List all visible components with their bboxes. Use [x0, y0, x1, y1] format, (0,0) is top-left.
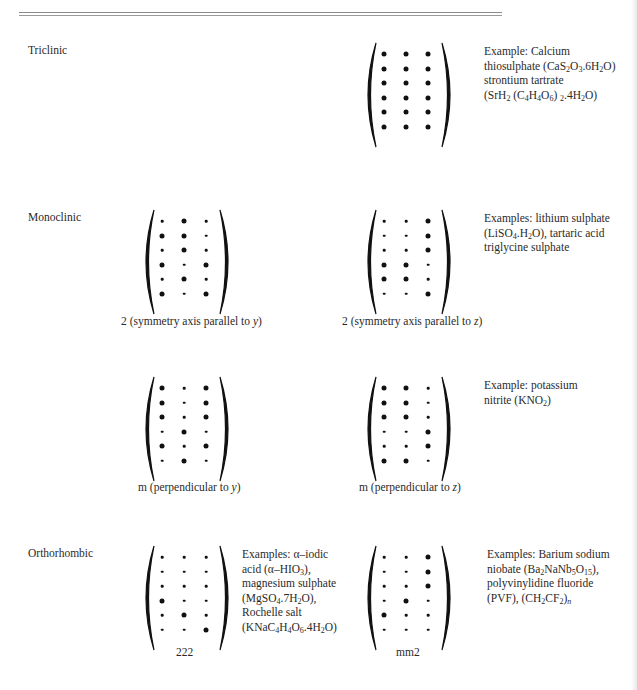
- example-line: polyvinylidine fluoride: [487, 576, 610, 591]
- small-dot-icon: [405, 570, 408, 573]
- large-dot-icon: [404, 110, 409, 115]
- large-dot-icon: [382, 124, 387, 129]
- small-dot-icon: [427, 459, 430, 462]
- small-dot-icon: [183, 570, 186, 573]
- large-dot-icon: [382, 81, 387, 86]
- large-dot-icon: [382, 52, 387, 57]
- caption-close-paren: ): [478, 315, 482, 327]
- large-dot-icon: [204, 386, 209, 391]
- small-dot-icon: [161, 249, 164, 252]
- example-line: niobate (Ba2NaNb5O15),: [487, 562, 610, 577]
- t: nitrite (KNO: [484, 394, 543, 406]
- small-dot-icon: [405, 249, 408, 252]
- large-dot-icon: [160, 386, 165, 391]
- example-line: Example: Calcium: [484, 44, 615, 59]
- large-dot-icon: [404, 386, 409, 391]
- small-dot-icon: [183, 585, 186, 588]
- large-dot-icon: [160, 291, 165, 296]
- large-dot-icon: [182, 458, 187, 463]
- example-line: (KNaC4H4O6.4H2O): [242, 620, 337, 635]
- large-dot-icon: [426, 248, 431, 253]
- small-dot-icon: [161, 278, 164, 281]
- large-dot-icon: [404, 277, 409, 282]
- large-dot-icon: [426, 124, 431, 129]
- example-line: nitrite (KNO2): [484, 393, 578, 408]
- t: O), tartaric acid: [532, 227, 604, 239]
- large-dot-icon: [382, 613, 387, 618]
- example-line: strontium tartrate: [484, 73, 615, 88]
- small-dot-icon: [205, 614, 208, 617]
- small-dot-icon: [383, 220, 386, 223]
- page-edge-shadow: [631, 0, 637, 690]
- example-line: magnesium sulphate: [242, 576, 337, 591]
- caption-monoclinic-my: m (perpendicular to y): [138, 481, 241, 493]
- small-dot-icon: [427, 416, 430, 419]
- large-dot-icon: [426, 569, 431, 574]
- small-dot-icon: [205, 570, 208, 573]
- small-dot-icon: [205, 599, 208, 602]
- large-dot-icon: [160, 400, 165, 405]
- small-dot-icon: [205, 459, 208, 462]
- caption-orthorhombic-mm2: mm2: [396, 646, 420, 658]
- large-dot-icon: [426, 429, 431, 434]
- small-dot-icon: [383, 585, 386, 588]
- t: NaNb: [544, 563, 571, 575]
- t: ),: [304, 563, 311, 575]
- small-dot-icon: [183, 599, 186, 602]
- t: niobate (Ba: [487, 563, 540, 575]
- large-dot-icon: [382, 66, 387, 71]
- section-label-monoclinic: Monoclinic: [28, 211, 81, 223]
- small-dot-icon: [183, 292, 186, 295]
- t: (MgSO: [242, 592, 277, 604]
- caption-text: 2 (symmetry axis parallel to: [121, 315, 253, 327]
- t: ),: [592, 563, 599, 575]
- small-dot-icon: [183, 628, 186, 631]
- header-rule-top: [19, 12, 502, 13]
- t: (KNaC: [242, 621, 275, 633]
- t: (C: [510, 89, 524, 101]
- small-dot-icon: [161, 556, 164, 559]
- t: .4H: [564, 89, 581, 101]
- small-dot-icon: [405, 614, 408, 617]
- large-dot-icon: [426, 555, 431, 560]
- small-dot-icon: [383, 292, 386, 295]
- matrix-brackets-icon: [362, 207, 462, 317]
- large-dot-icon: [404, 95, 409, 100]
- example-line: (SrH2 (C4H4O6) 2.4H2O): [484, 88, 615, 103]
- small-dot-icon: [383, 556, 386, 559]
- matrix-brackets-icon: [362, 40, 462, 150]
- t: ): [547, 394, 551, 406]
- small-dot-icon: [383, 249, 386, 252]
- example-monoclinic: Examples: lithium sulphate (LiSO4.H2O), …: [484, 211, 610, 255]
- example-line: thiosulphate (CaS2O3.6H2O): [484, 59, 615, 74]
- small-dot-icon: [161, 585, 164, 588]
- caption-close-paren: ): [457, 481, 461, 493]
- small-dot-icon: [383, 430, 386, 433]
- example-line: Examples: lithium sulphate: [484, 211, 610, 226]
- example-line: acid (α–HIO3),: [242, 562, 337, 577]
- large-dot-icon: [204, 262, 209, 267]
- matrix-monoclinic-my: [140, 374, 240, 484]
- large-dot-icon: [160, 444, 165, 449]
- t: O: [292, 621, 300, 633]
- caption-text: 2 (symmetry axis parallel to: [342, 315, 474, 327]
- large-dot-icon: [182, 219, 187, 224]
- large-dot-icon: [382, 386, 387, 391]
- large-dot-icon: [382, 415, 387, 420]
- large-dot-icon: [204, 400, 209, 405]
- matrix-brackets-icon: [140, 207, 240, 317]
- large-dot-icon: [182, 248, 187, 253]
- large-dot-icon: [404, 262, 409, 267]
- large-dot-icon: [426, 584, 431, 589]
- small-dot-icon: [383, 570, 386, 573]
- small-dot-icon: [427, 401, 430, 404]
- caption-monoclinic-mz: m (perpendicular to z): [359, 481, 461, 493]
- large-dot-icon: [182, 613, 187, 618]
- large-dot-icon: [182, 277, 187, 282]
- example-triclinic: Example: Calcium thiosulphate (CaS2O3.6H…: [484, 44, 615, 102]
- small-dot-icon: [405, 430, 408, 433]
- large-dot-icon: [426, 81, 431, 86]
- large-dot-icon: [204, 415, 209, 420]
- matrix-triclinic-1: [362, 40, 462, 150]
- t: O: [576, 563, 584, 575]
